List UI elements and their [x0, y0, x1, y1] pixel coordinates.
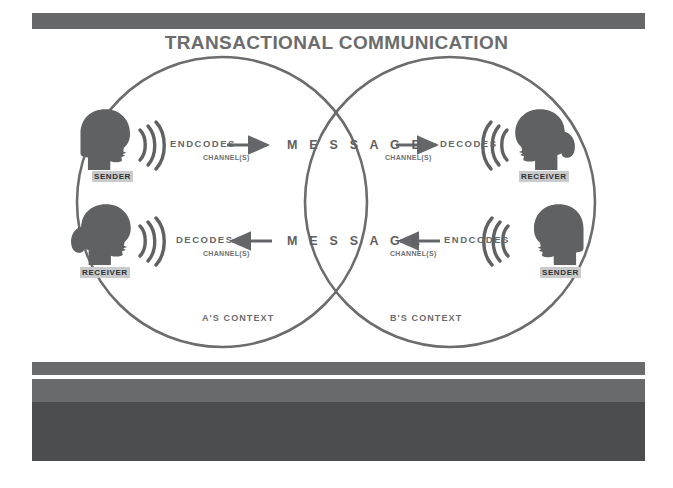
bottom-decor-block: [32, 379, 645, 461]
figure-bottom-right-sender: [534, 204, 584, 265]
top-right-decode-label: DECODES: [440, 138, 497, 149]
bottom-right-encode-label: ENDCODES: [444, 234, 510, 245]
figure-bottom-left-receiver: [71, 204, 131, 265]
figure-top-left-sender: [80, 109, 130, 170]
bottom-decor-bar: [32, 362, 645, 375]
top-right-channel-label: CHANNEL(S): [385, 154, 432, 161]
bottom-left-decode-label: DECODES: [176, 234, 233, 245]
message-label-bottom: M E S S A G E: [287, 234, 424, 248]
bottom-right-channel-label: CHANNEL(S): [390, 250, 437, 257]
role-badge-top-right-receiver: RECEIVER: [519, 171, 569, 182]
top-left-channel-label: CHANNEL(S): [203, 154, 250, 161]
top-left-encode-label: ENDCODES: [170, 138, 236, 149]
role-badge-bottom-right-sender: SENDER: [540, 267, 581, 278]
a-context-label: A'S CONTEXT: [202, 313, 274, 323]
bottom-decor-block-highlight: [32, 379, 645, 402]
role-badge-bottom-left-receiver: RECEIVER: [80, 267, 130, 278]
slide-canvas: TRANSACTIONAL COMMUNICATION: [0, 0, 673, 488]
message-label-top: M E S S A G E: [287, 138, 424, 152]
bottom-left-channel-label: CHANNEL(S): [203, 250, 250, 257]
b-context-label: B'S CONTEXT: [390, 313, 462, 323]
circle-b-context: [305, 57, 595, 347]
sound-waves-top-left: [140, 122, 164, 169]
circle-a-context: [77, 57, 367, 347]
sound-waves-bottom-left: [140, 218, 164, 265]
figure-top-right-receiver: [515, 109, 575, 170]
role-badge-top-left-sender: SENDER: [92, 171, 133, 182]
